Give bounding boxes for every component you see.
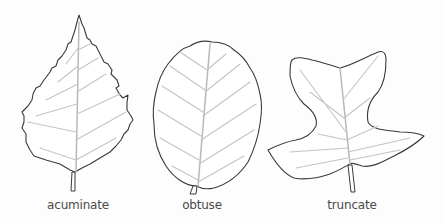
acuminate-leaf-icon [22,15,133,191]
leaf-diagram [0,0,442,224]
obtuse-leaf-icon [153,41,261,194]
acuminate-label: acuminate [47,198,109,212]
truncate-label: truncate [327,198,376,212]
obtuse-label: obtuse [182,198,222,212]
truncate-leaf-icon [268,51,424,192]
